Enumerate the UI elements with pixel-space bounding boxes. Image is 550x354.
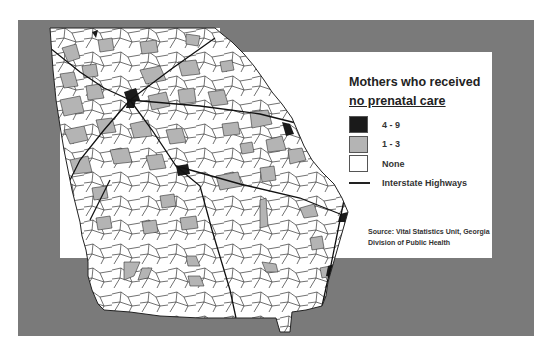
swatch-low — [349, 136, 368, 153]
legend-label-low: 1 - 3 — [382, 139, 400, 149]
legend: Mothers who received no prenatal care 4 … — [349, 73, 499, 193]
legend-title-line2: no prenatal care — [349, 92, 499, 111]
legend-item-highways: Interstate Highways — [349, 174, 499, 194]
source-note: Source: Vital Statistics Unit, Georgia D… — [368, 226, 490, 248]
source-line1: Source: Vital Statistics Unit, Georgia — [368, 226, 490, 237]
legend-item-low: 1 - 3 — [349, 135, 499, 155]
legend-label-high: 4 - 9 — [382, 120, 400, 130]
legend-label-highways: Interstate Highways — [382, 178, 467, 188]
source-line2: Division of Public Health — [368, 237, 490, 248]
highway-line-icon — [349, 182, 370, 184]
swatch-high — [349, 116, 368, 133]
swatch-none — [349, 155, 368, 172]
legend-title-line1: Mothers who received — [349, 73, 499, 92]
legend-item-high: 4 - 9 — [349, 115, 499, 135]
legend-label-none: None — [382, 159, 405, 169]
county-layer — [40, 20, 360, 340]
legend-item-none: None — [349, 154, 499, 174]
